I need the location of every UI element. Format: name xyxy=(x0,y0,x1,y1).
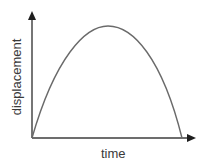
x-axis-label: time xyxy=(101,147,126,160)
y-axis-arrow-icon xyxy=(28,11,36,20)
displacement-time-graph xyxy=(0,0,214,167)
x-axis-arrow-icon xyxy=(187,134,196,142)
displacement-curve xyxy=(32,26,182,138)
y-axis-label: displacement xyxy=(10,39,23,116)
